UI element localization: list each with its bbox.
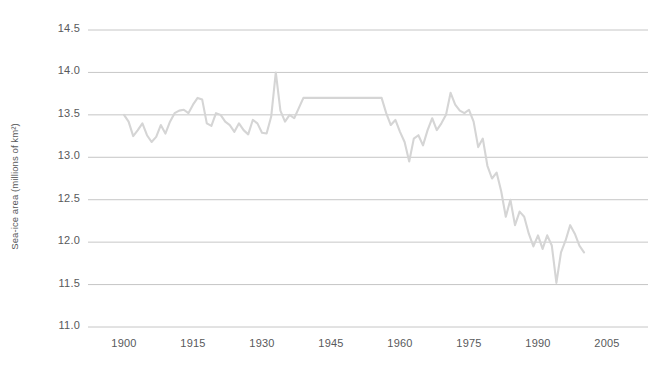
- x-tick-label: 1945: [301, 337, 361, 349]
- x-tick-label: 1975: [439, 337, 499, 349]
- x-tick-label: 1900: [94, 337, 154, 349]
- x-tick-label: 1990: [508, 337, 568, 349]
- y-tick-label: 12.5: [26, 192, 80, 204]
- y-tick-label: 13.0: [26, 149, 80, 161]
- y-tick-label: 14.5: [26, 22, 80, 34]
- y-tick-label: 13.5: [26, 107, 80, 119]
- x-tick-label: 2005: [577, 337, 637, 349]
- x-tick-label: 1915: [163, 337, 223, 349]
- x-tick-label: 1930: [232, 337, 292, 349]
- plot-area: [0, 0, 672, 373]
- y-tick-label: 11.5: [26, 277, 80, 289]
- gridlines: [88, 30, 648, 327]
- data-series: [124, 72, 584, 282]
- sea-ice-area-line-chart: Sea-ice area (millions of km²) 14.514.01…: [0, 0, 672, 373]
- y-tick-label: 14.0: [26, 64, 80, 76]
- series-line-sea-ice-area: [124, 72, 584, 282]
- y-tick-label: 12.0: [26, 234, 80, 246]
- y-tick-label: 11.0: [26, 319, 80, 331]
- x-tick-label: 1960: [370, 337, 430, 349]
